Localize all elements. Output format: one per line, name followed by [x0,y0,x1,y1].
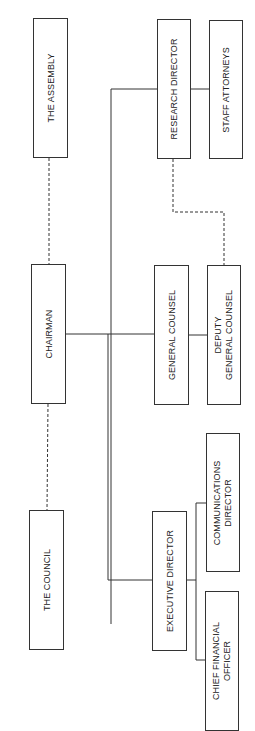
label-the-assembly: THE ASSEMBLY [45,53,56,122]
label-research-director: RESEARCH DIRECTOR [169,38,180,139]
box-the-council: THE COUNCIL [29,510,64,650]
box-chairman: CHAIRMAN [31,264,66,404]
label-executive-director: EXECUTIVE DIRECTOR [164,530,175,632]
box-communications-director: COMMUNICATIONS DIRECTOR [206,433,240,572]
box-deputy-general-counsel: DEPUTY GENERAL COUNSEL [207,265,241,405]
box-research-director: RESEARCH DIRECTOR [157,19,191,159]
label-staff-attorneys: STAFF ATTORNEYS [221,47,232,133]
box-executive-director: EXECUTIVE DIRECTOR [152,511,187,651]
dashed-research-deputy [173,159,224,265]
box-the-assembly: THE ASSEMBLY [33,18,68,158]
label-general-counsel: GENERAL COUNSEL [166,290,177,380]
label-the-council: THE COUNCIL [41,549,52,611]
dashed-chairman-council [47,404,48,510]
box-general-counsel: GENERAL COUNSEL [154,265,189,405]
box-chief-financial-officer: CHIEF FINANCIAL OFFICER [205,591,239,731]
label-communications-director: COMMUNICATIONS DIRECTOR [212,460,234,545]
label-chairman: CHAIRMAN [43,310,54,359]
label-chief-financial-officer: CHIEF FINANCIAL OFFICER [211,622,233,700]
label-deputy-general-counsel: DEPUTY GENERAL COUNSEL [213,290,235,380]
box-staff-attorneys: STAFF ATTORNEYS [209,20,243,159]
trunk-research [111,89,157,624]
